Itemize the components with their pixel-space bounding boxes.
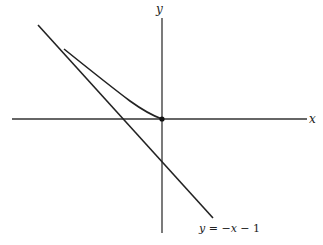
x-axis-label: x: [309, 112, 316, 126]
tangent-line: [38, 25, 213, 218]
line-equation-label: y = −x − 1: [198, 222, 260, 235]
graph-diagram: y x y = −x − 1: [0, 0, 323, 245]
y-axis-label: y: [155, 2, 163, 16]
origin-point: [159, 116, 164, 121]
